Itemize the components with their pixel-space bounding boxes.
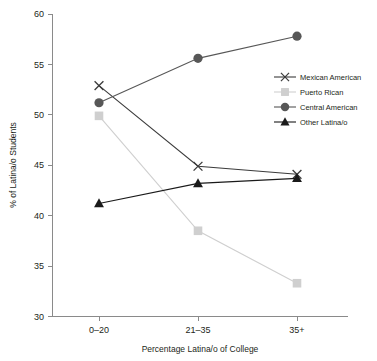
legend-item-puerto-rican[interactable]: Puerto Rican — [274, 88, 343, 97]
legend-label: Puerto Rican — [300, 88, 343, 97]
x-tick-label: 0–20 — [89, 325, 109, 335]
data-point-marker-circle — [292, 32, 301, 41]
legend-label: Mexican American — [300, 73, 361, 82]
legend-item-other-latina-o[interactable]: Other Latina/o — [274, 117, 348, 127]
y-tick-label: 50 — [34, 110, 44, 120]
series-central-american — [94, 32, 301, 108]
y-tick-label: 40 — [34, 211, 44, 221]
y-tick-label: 45 — [34, 160, 44, 170]
x-axis-ticks — [99, 317, 297, 322]
data-point-marker-square — [194, 226, 203, 235]
series-mexican-american — [95, 81, 302, 179]
data-point-marker-square — [293, 279, 302, 288]
data-point-marker-triangle — [280, 117, 289, 125]
x-tick-label: 35+ — [289, 325, 304, 335]
data-point-marker-triangle — [193, 178, 203, 187]
data-point-marker-x — [95, 81, 104, 90]
series-other-latina-o — [94, 173, 302, 207]
y-tick-label: 30 — [34, 312, 44, 322]
x-axis-title: Percentage Latina/o of College — [142, 344, 259, 354]
y-tick-label: 60 — [34, 9, 44, 19]
line-chart: 30354045505560 0–2021–3535+ Percentage L… — [0, 0, 377, 361]
legend-label: Central American — [300, 103, 358, 112]
y-axis-ticks — [48, 14, 53, 317]
data-point-marker-circle — [94, 98, 103, 107]
data-series-layer — [94, 32, 302, 288]
series-puerto-rican — [95, 112, 302, 288]
series-line — [99, 86, 297, 175]
data-point-marker-circle — [281, 103, 289, 111]
legend-item-central-american[interactable]: Central American — [274, 103, 358, 112]
x-axis-tick-labels: 0–2021–3535+ — [89, 325, 305, 335]
series-line — [99, 36, 297, 103]
chart-legend: Mexican AmericanPuerto RicanCentral Amer… — [274, 73, 361, 127]
x-tick-label: 21–35 — [185, 325, 210, 335]
series-line — [99, 116, 297, 283]
legend-label: Other Latina/o — [300, 118, 348, 127]
y-tick-label: 55 — [34, 60, 44, 70]
y-axis-title: % of Latina/o Students — [8, 122, 18, 208]
y-tick-label: 35 — [34, 261, 44, 271]
data-point-marker-square — [281, 88, 289, 96]
y-axis-tick-labels: 30354045505560 — [34, 9, 44, 322]
legend-item-mexican-american[interactable]: Mexican American — [274, 73, 361, 82]
chart-plot-area: 30354045505560 0–2021–3535+ Percentage L… — [0, 0, 377, 361]
data-point-marker-square — [95, 112, 104, 121]
data-point-marker-circle — [193, 54, 202, 63]
